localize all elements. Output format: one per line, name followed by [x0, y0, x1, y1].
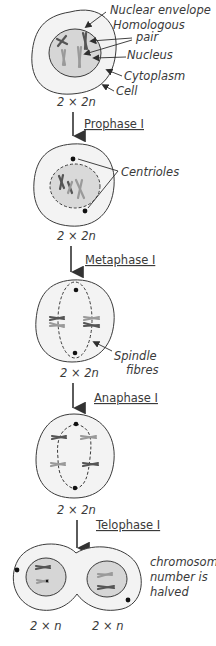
ploidy-anaphase: 2 × 2n	[57, 503, 96, 517]
centriole-bottom	[83, 209, 88, 214]
label-nuclear-envelope: Nuclear envelope	[110, 3, 211, 17]
telophase-cells	[13, 544, 141, 610]
nucleus-shape	[49, 29, 101, 77]
stage-metaphase: Metaphase I	[85, 253, 155, 267]
ploidy-prophase: 2 × 2n	[57, 229, 96, 243]
metaphase-cell	[36, 280, 114, 362]
label-cell: Cell	[116, 84, 138, 98]
ploidy-metaphase: 2 × 2n	[60, 366, 99, 380]
anaphase-cell	[36, 414, 114, 498]
label-cytoplasm: Cytoplasm	[124, 69, 185, 83]
prophase-cell	[34, 144, 118, 226]
stage-telophase: Telophase I	[95, 518, 160, 532]
label-fibres: fibres	[126, 363, 159, 377]
meiosis-diagram: Nuclear envelope Homologous pair Nucleus…	[0, 0, 216, 646]
label-spindle: Spindle	[114, 349, 157, 363]
centriole-top	[71, 157, 76, 162]
label-number-is: number is	[150, 570, 208, 584]
ploidy-initial: 2 × 2n	[57, 95, 96, 109]
stage-prophase: Prophase I	[84, 117, 144, 131]
ploidy-daughter-left: 2 × n	[30, 619, 62, 633]
label-centrioles: Centrioles	[121, 165, 179, 179]
label-halved: halved	[150, 585, 189, 599]
ploidy-daughter-right: 2 × n	[92, 619, 124, 633]
label-chromosome: chromosome	[150, 555, 216, 569]
stage-anaphase: Anaphase I	[94, 391, 158, 405]
label-nucleus: Nucleus	[127, 48, 173, 62]
label-pair: pair	[135, 30, 160, 44]
